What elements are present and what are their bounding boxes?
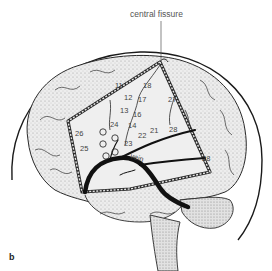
- point-label: 21: [150, 127, 158, 135]
- point-label: 27: [168, 96, 176, 104]
- point-label: 13: [120, 107, 128, 115]
- point-label: 24: [110, 121, 118, 129]
- brainstem: [150, 215, 180, 271]
- point-label: 22: [138, 132, 146, 140]
- point-label: 28: [202, 155, 210, 163]
- brain-illustration: [0, 0, 272, 271]
- panel-letter: b: [9, 252, 15, 262]
- point-label: 18: [143, 82, 151, 90]
- point-label: 14: [128, 122, 136, 130]
- point-label: 11: [115, 82, 123, 90]
- point-label: 26: [75, 130, 83, 138]
- brain-diagram: central fissure 11 18 12 17 27 13 16 24 …: [0, 0, 272, 271]
- point-label: 28: [169, 126, 177, 134]
- point-label: 23: [124, 140, 132, 148]
- point-label: 17: [138, 96, 146, 104]
- point-label: 25: [80, 145, 88, 153]
- central-fissure-label: central fissure: [130, 9, 183, 19]
- point-label: 12: [124, 94, 132, 102]
- point-label: 16: [133, 111, 141, 119]
- cerebellum: [180, 197, 233, 228]
